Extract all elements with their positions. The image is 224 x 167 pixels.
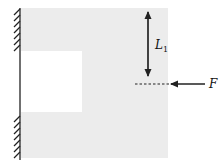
wall-hatching-bottom bbox=[14, 116, 20, 158]
wall-hatching-top bbox=[14, 9, 20, 51]
plate bbox=[21, 8, 168, 158]
cutout bbox=[21, 51, 82, 112]
force-label: F bbox=[208, 77, 218, 91]
fixed-wall-support bbox=[14, 8, 20, 160]
diagram-canvas: L1 F bbox=[0, 0, 224, 167]
